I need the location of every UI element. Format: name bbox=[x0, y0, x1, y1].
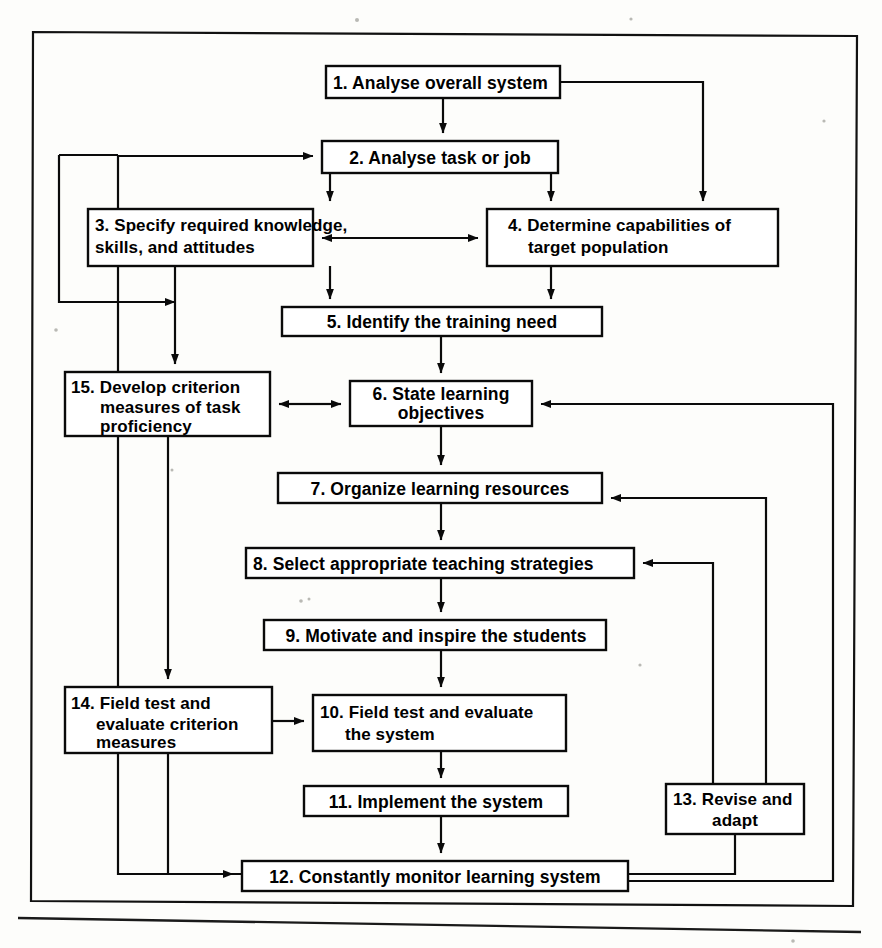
node-7-label: 7. Organize learning resources bbox=[311, 479, 570, 499]
node-15-label-line3: proficiency bbox=[100, 417, 192, 436]
node-4-determine-capabilities[interactable]: 4. Determine capabilities of target popu… bbox=[487, 209, 778, 266]
edge-n13-n8 bbox=[643, 563, 713, 784]
node-6-state-learning-objectives[interactable]: 6. State learning objectives bbox=[350, 381, 532, 426]
node-11-implement-the-system[interactable]: 11. Implement the system bbox=[304, 786, 568, 816]
node-11-label: 11. Implement the system bbox=[329, 792, 543, 812]
node-4-label-line1: 4. Determine capabilities of bbox=[508, 216, 731, 235]
node-7-organize-learning-resources[interactable]: 7. Organize learning resources bbox=[278, 473, 602, 503]
node-6-label-line2: objectives bbox=[398, 403, 485, 423]
edge-n14-n12 bbox=[168, 753, 233, 874]
node-12-label: 12. Constantly monitor learning system bbox=[269, 867, 601, 887]
node-3-specify-required-knowledge[interactable]: 3. Specify required knowledge, skills, a… bbox=[88, 209, 347, 266]
node-8-select-teaching-strategies[interactable]: 8. Select appropriate teaching strategie… bbox=[246, 548, 634, 578]
node-14-label-line3: measures bbox=[96, 733, 176, 752]
edge-n13-n7 bbox=[611, 498, 766, 784]
node-3-label-line1: 3. Specify required knowledge, bbox=[95, 216, 347, 235]
node-2-analyse-task-or-job[interactable]: 2. Analyse task or job bbox=[322, 141, 558, 173]
node-1-label: 1. Analyse overall system bbox=[333, 73, 548, 93]
node-layer: 1. Analyse overall system 2. Analyse tas… bbox=[65, 66, 804, 891]
node-15-label-line1: 15. Develop criterion bbox=[71, 378, 240, 397]
node-14-label-line1: 14. Field test and bbox=[71, 694, 211, 713]
node-2-label: 2. Analyse task or job bbox=[349, 148, 530, 168]
node-10-label-line2: the system bbox=[345, 725, 435, 744]
node-3-label-line2: skills, and attitudes bbox=[95, 238, 255, 257]
node-13-label-line2: adapt bbox=[712, 811, 758, 830]
node-4-label-line2: target population bbox=[528, 238, 669, 257]
node-10-field-test-evaluate-system[interactable]: 10. Field test and evaluate the system bbox=[313, 695, 566, 751]
node-15-label-line2: measures of task bbox=[100, 398, 241, 417]
node-10-label-line1: 10. Field test and evaluate bbox=[320, 703, 533, 722]
node-9-motivate-inspire-students[interactable]: 9. Motivate and inspire the students bbox=[264, 620, 606, 650]
node-5-identify-training-need[interactable]: 5. Identify the training need bbox=[282, 307, 602, 336]
bottom-rule bbox=[18, 918, 861, 932]
node-1-analyse-overall-system[interactable]: 1. Analyse overall system bbox=[326, 66, 560, 98]
node-12-constantly-monitor-learning-system[interactable]: 12. Constantly monitor learning system bbox=[242, 861, 628, 891]
edge-n1-n4 bbox=[560, 82, 703, 201]
node-13-revise-and-adapt[interactable]: 13. Revise and adapt bbox=[666, 784, 804, 834]
node-9-label: 9. Motivate and inspire the students bbox=[285, 626, 586, 646]
flowchart-canvas: 1. Analyse overall system 2. Analyse tas… bbox=[0, 0, 882, 948]
node-8-label: 8. Select appropriate teaching strategie… bbox=[253, 554, 594, 574]
node-14-label-line2: evaluate criterion bbox=[96, 715, 239, 734]
node-14-field-test-evaluate-criterion-measures[interactable]: 14. Field test and evaluate criterion me… bbox=[65, 687, 272, 753]
node-5-label: 5. Identify the training need bbox=[327, 312, 557, 332]
node-15-develop-criterion-measures[interactable]: 15. Develop criterion measures of task p… bbox=[65, 372, 270, 436]
node-13-label-line1: 13. Revise and bbox=[673, 790, 793, 809]
flowchart-svg: 1. Analyse overall system 2. Analyse tas… bbox=[0, 0, 882, 948]
edge-n12-n13 bbox=[628, 834, 735, 874]
node-6-label-line1: 6. State learning bbox=[373, 384, 510, 404]
